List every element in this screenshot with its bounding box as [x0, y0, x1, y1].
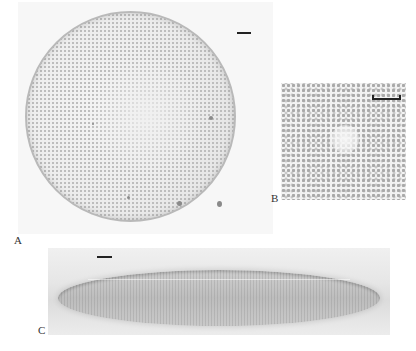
valve-speck	[177, 201, 182, 206]
panel-a-scale-bar	[237, 32, 251, 34]
panel-label-b: B	[271, 193, 278, 204]
panel-c-girdle-view-image	[48, 248, 390, 335]
valve-central-area	[89, 54, 203, 178]
panel-b-areolae-image	[281, 83, 406, 200]
panel-c-scale-bar	[97, 256, 112, 258]
valve-speck	[217, 201, 222, 207]
panel-label-c: C	[38, 325, 45, 336]
areolae-central-area	[331, 125, 359, 153]
frustule-girdle	[58, 270, 380, 326]
valve-speck	[92, 123, 94, 125]
panel-a-circular-valve-image	[25, 11, 236, 222]
panel-label-a: A	[14, 235, 22, 246]
valve-speck	[209, 116, 213, 120]
valve-speck	[127, 196, 130, 199]
girdle-highlight	[88, 279, 350, 280]
panel-b-scale-bar	[372, 98, 401, 100]
